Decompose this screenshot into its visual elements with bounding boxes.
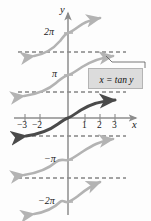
curve-branch-k2	[34, 18, 100, 56]
graph-figure: 2π π −π −2π −3 −2 1 2 3 y x x = tan y	[0, 0, 151, 221]
x-tick-label-2: 2	[97, 121, 102, 131]
y-tick-label-2pi: 2π	[44, 27, 54, 37]
x-axis-label: x	[132, 120, 137, 131]
x-tick-label-neg3: −3	[17, 121, 27, 131]
x-tick-label-3: 3	[112, 121, 117, 131]
y-axis-label: y	[60, 5, 65, 16]
x-tick-label-1: 1	[82, 121, 87, 131]
equation-callout-text: x = tan y	[89, 69, 144, 90]
callout-leader-line	[106, 56, 145, 68]
y-tick-label-neg-pi: −π	[44, 154, 56, 164]
equation-callout-box: x = tan y	[88, 68, 143, 89]
x-tick-label-neg2: −2	[32, 121, 42, 131]
y-tick-label-pi: π	[52, 69, 57, 79]
graph-canvas	[0, 0, 151, 221]
y-tick-label-neg-2pi: −2π	[38, 196, 55, 206]
